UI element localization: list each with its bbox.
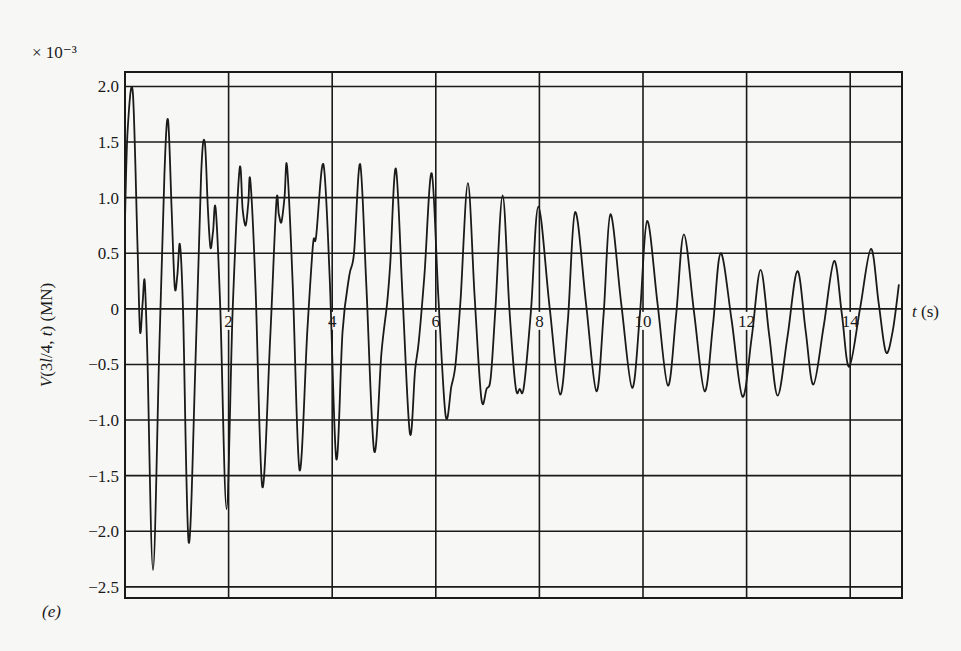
series-line — [125, 87, 899, 570]
x-tick-labels: 2468101214 — [222, 312, 861, 331]
horizontal-gridlines — [125, 86, 902, 586]
x-tick-label: 10 — [635, 312, 652, 331]
x-tick-label: 4 — [328, 312, 337, 331]
y-tick-labels: 2.01.51.00.50−0.5−1.0−1.5−2.0−2.5 — [88, 77, 119, 596]
y-tick-label: −1.5 — [88, 467, 119, 486]
y-tick-label: 0.5 — [98, 244, 119, 263]
x-axis-label: t (s) — [912, 302, 939, 321]
y-tick-label: 2.0 — [98, 77, 119, 96]
y-tick-label: 1.5 — [98, 133, 119, 152]
y-tick-label: −1.0 — [88, 411, 119, 430]
chart: 2.01.51.00.50−0.5−1.0−1.5−2.0−2.5 246810… — [0, 0, 961, 651]
y-tick-label: −2.5 — [88, 578, 119, 597]
y-axis-label: V(3l/4, t) (MN) — [37, 283, 56, 387]
x-tick-label: 8 — [535, 312, 544, 331]
y-tick-label: −0.5 — [88, 355, 119, 374]
y-tick-label: 1.0 — [98, 189, 119, 208]
vertical-gridlines — [229, 72, 851, 598]
panel-label: (e) — [42, 602, 61, 621]
y-scale-note: × 10⁻³ — [32, 43, 77, 62]
y-tick-label: −2.0 — [88, 522, 119, 541]
plot-frame — [125, 72, 902, 598]
y-tick-label: 0 — [111, 300, 120, 319]
